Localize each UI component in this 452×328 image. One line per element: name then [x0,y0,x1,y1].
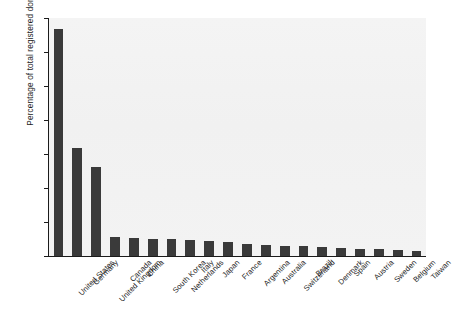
x-tick-label: France [240,258,264,282]
bar [374,249,384,256]
y-tick-mark [44,256,48,257]
bar [148,239,158,256]
x-axis-line [48,256,426,257]
bar [223,242,233,256]
bar [317,247,327,256]
bar [280,246,290,256]
y-tick-mark [44,18,48,19]
y-tick-mark [44,52,48,53]
bar [129,238,139,256]
y-tick-mark [44,120,48,121]
y-tick-mark [44,188,48,189]
bar [204,241,214,256]
bar [355,249,365,256]
y-axis-title: Percentage of total registered domains [26,0,35,155]
bar [412,251,422,256]
y-tick-mark [44,154,48,155]
bar [242,244,252,256]
bar [167,239,177,256]
bar [110,237,120,256]
bar [299,246,309,256]
bar [72,148,82,256]
y-tick-mark [44,86,48,87]
bar [185,240,195,256]
bar-series [49,18,426,256]
bar [54,29,64,256]
bar [261,245,271,256]
bar [336,248,346,256]
x-tick-label: Japan [220,258,241,279]
bar [393,250,403,256]
x-axis-labels: United StatesGermanyUnited KingdomCanada… [49,258,429,328]
bar [91,167,101,256]
y-tick-mark [44,222,48,223]
